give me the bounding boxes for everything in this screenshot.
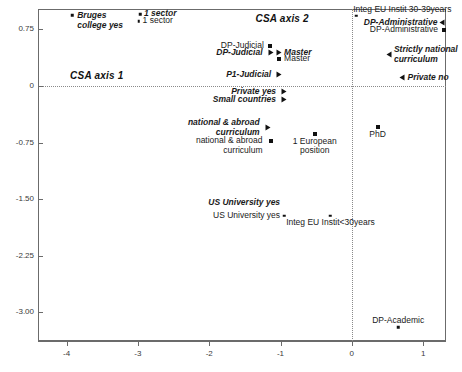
point-marker	[277, 72, 282, 78]
point-marker	[268, 44, 272, 48]
point-marker	[440, 20, 445, 26]
y-tick	[38, 199, 43, 200]
point-marker	[269, 139, 273, 143]
point-label: Bruges college yes	[77, 11, 123, 30]
point-marker	[137, 20, 140, 23]
x-tick	[138, 341, 139, 346]
y-tick	[38, 86, 43, 87]
point-marker	[400, 75, 405, 81]
x-tick	[67, 341, 68, 346]
x-tick	[423, 341, 424, 346]
x-tick	[352, 341, 353, 346]
point-marker	[282, 89, 287, 95]
point-label: 1 sector	[143, 16, 173, 26]
point-marker	[442, 28, 446, 32]
point-marker	[283, 214, 286, 217]
y-tick	[38, 143, 43, 144]
y-tick-label: -2.25	[16, 251, 34, 260]
y-tick-label: 0.75	[18, 24, 34, 33]
axis-caption-1: CSA axis 1	[70, 70, 123, 81]
y-tick	[38, 312, 43, 313]
reference-line-vertical	[352, 9, 353, 341]
x-tick-label: -1	[277, 349, 284, 358]
x-tick	[281, 341, 282, 346]
point-label: Master	[284, 54, 310, 64]
point-marker	[282, 97, 287, 103]
point-label: DP-Administrative	[370, 25, 438, 35]
x-tick-label: -3	[134, 349, 141, 358]
point-label: DP-Judicial	[216, 48, 262, 58]
plot-frame	[38, 9, 446, 341]
point-marker	[397, 326, 400, 329]
point-marker	[277, 57, 281, 61]
x-axis-spine	[38, 341, 446, 342]
point-label: Integ EU Instit 30-39years	[353, 5, 451, 15]
point-label: Small countries	[213, 95, 276, 105]
point-marker	[139, 13, 142, 16]
point-marker	[277, 49, 282, 55]
y-axis-spine	[38, 9, 39, 341]
point-label: DP-Academic	[372, 316, 424, 326]
point-label: Private no	[407, 73, 448, 83]
y-tick-label: -3.00	[16, 307, 34, 316]
y-tick-label: -0.75	[16, 138, 34, 147]
point-label: Strictly national curriculum	[394, 45, 458, 64]
point-marker	[386, 52, 391, 58]
point-label: US University yes	[208, 198, 280, 208]
y-tick-label: -1.50	[16, 194, 34, 203]
point-label: P1-Judicial	[226, 70, 271, 80]
point-label: 1 European position	[293, 137, 337, 156]
y-tick	[38, 29, 43, 30]
chart-canvas: -4-3-2-1010.750-0.75-1.50-2.25-3.00 CSA …	[0, 0, 462, 372]
point-label: US University yes	[213, 211, 280, 221]
y-tick-label: 0	[30, 81, 34, 90]
x-tick	[209, 341, 210, 346]
point-marker	[265, 125, 270, 131]
x-tick-label: -2	[206, 349, 213, 358]
y-tick	[38, 256, 43, 257]
point-label: Integ EU Instit<30years	[286, 218, 375, 228]
x-tick-label: -4	[63, 349, 70, 358]
point-marker	[71, 14, 74, 17]
point-label: national & abroad curriculum	[196, 136, 263, 155]
x-tick-label: 0	[350, 349, 354, 358]
point-marker	[355, 15, 358, 18]
point-label: PhD	[369, 130, 386, 140]
point-marker	[268, 49, 273, 55]
axis-caption-2: CSA axis 2	[256, 13, 309, 24]
x-tick-label: 1	[421, 349, 425, 358]
